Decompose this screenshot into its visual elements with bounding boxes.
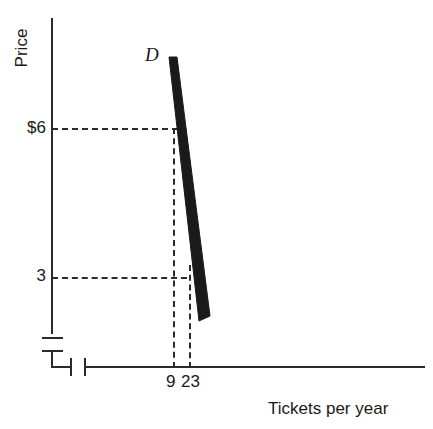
y-tick-label-6: $6 — [2, 118, 46, 138]
x-axis-line — [84, 366, 425, 368]
y-axis-title: Price — [12, 8, 32, 88]
demand-curve-chart: Price Tickets per year $6 3 9 23 D — [0, 0, 433, 429]
x-axis-title: Tickets per year — [268, 399, 388, 419]
guide-line-vertical-quantity-23 — [189, 265, 191, 368]
x-axis-break-tick-left — [70, 358, 72, 376]
guide-line-horizontal-price-3 — [52, 277, 187, 279]
demand-curve-svg — [0, 0, 433, 429]
demand-curve-label: D — [145, 44, 159, 66]
axis-origin-elbow-horizontal — [51, 366, 71, 368]
guide-line-horizontal-price-6 — [52, 128, 178, 130]
x-tick-label-9: 9 — [166, 372, 175, 392]
y-tick-label-3: 3 — [2, 266, 46, 286]
y-axis-break-tick-upper — [42, 337, 63, 339]
guide-line-vertical-quantity-9 — [173, 128, 175, 368]
y-axis-line — [51, 18, 53, 334]
x-tick-label-23: 23 — [181, 372, 200, 392]
